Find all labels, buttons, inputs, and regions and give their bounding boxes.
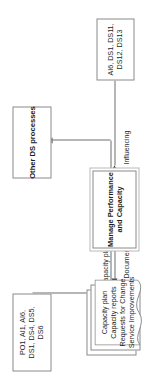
inputs-line-2: DS12, DS13 (115, 23, 124, 75)
diagram-rotated-group: Capacity plan Influencing Documents PO1,… (0, 0, 160, 391)
process-line-1: Manage Performance (105, 172, 114, 247)
document-line-3: Requests for Change (117, 276, 126, 348)
process-line-2: and Capacity (114, 172, 123, 247)
node-manage-performance-and-capacity[interactable]: Manage Performance and Capacity (92, 170, 136, 248)
governance-line-3: DS6 (36, 306, 45, 358)
node-input-references[interactable]: AI6, DS1, DS11, DS12, DS13 (96, 18, 134, 80)
document-line-1: Capacity plan (99, 276, 108, 348)
diagram-canvas: Capacity plan Influencing Documents PO1,… (0, 0, 160, 391)
connector-documents (114, 248, 115, 278)
node-governance-references[interactable]: PO1, AI1, AI6, DS1, DS4, DS5, DS6 (12, 293, 51, 371)
edge-label-influencing: Influencing (122, 129, 129, 165)
document-line-2: Capacity reports (108, 276, 117, 348)
document-stack-labels: Capacity plan Capacity reports Requests … (94, 279, 144, 345)
connector-inputs (114, 80, 115, 165)
document-line-4: Service Improvements (126, 276, 135, 348)
node-other-ds-processes[interactable]: Other DS processes (12, 106, 51, 178)
document-stack[interactable]: Capacity plan Capacity reports Requests … (86, 277, 144, 355)
arrowhead-to-process (111, 165, 117, 170)
other-ds-line-1: Other DS processes (27, 106, 36, 179)
connector-influencing-vertical (52, 139, 110, 140)
